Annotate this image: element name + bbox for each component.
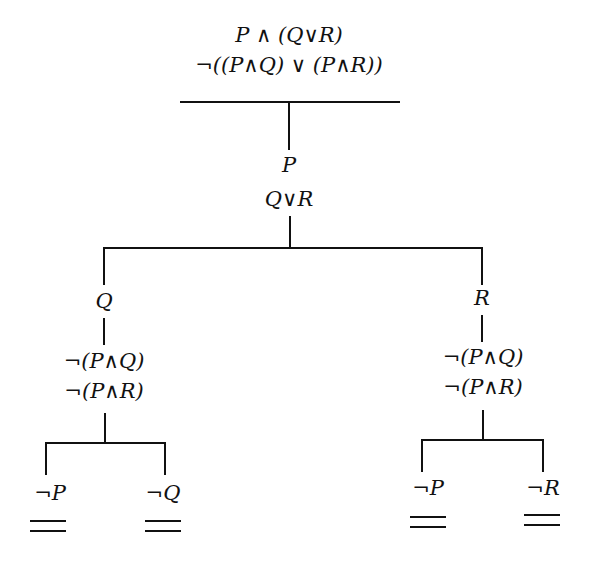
left-leaf-1-closed-mark bbox=[30, 520, 66, 532]
premise-separator-line bbox=[180, 101, 400, 103]
trunk-connector-top bbox=[288, 102, 290, 150]
left-leaf-1: ¬P bbox=[34, 480, 66, 506]
right-branch-drop bbox=[481, 247, 483, 285]
right-branch-connector bbox=[481, 315, 483, 342]
left-continued-formula-1: ¬(P∧Q) bbox=[64, 348, 145, 374]
trunk-formula-1: P bbox=[265, 152, 313, 178]
right-leaf-1-drop bbox=[421, 439, 423, 472]
right-split-line bbox=[421, 439, 544, 441]
right-split-stem bbox=[482, 410, 484, 440]
trunk-formula-2: Q∨R bbox=[265, 186, 313, 212]
left-split-stem bbox=[104, 413, 106, 443]
right-branch-formula: R bbox=[474, 285, 490, 311]
root-formulas: P ∧ (Q∨R) ¬((P∧Q) ∨ (P∧R)) bbox=[195, 22, 383, 78]
left-leaf-2-drop bbox=[164, 442, 166, 475]
root-formula-2: ¬((P∧Q) ∨ (P∧R)) bbox=[195, 52, 383, 78]
right-continued-formula-2: ¬(P∧R) bbox=[443, 374, 524, 400]
right-leaf-2: ¬R bbox=[526, 475, 559, 501]
left-leaf-2: ¬Q bbox=[146, 480, 181, 506]
right-leaf-2-closed-mark bbox=[524, 514, 560, 526]
right-leaf-1-formula: ¬P bbox=[412, 475, 444, 501]
left-branch-formula: Q bbox=[95, 288, 112, 314]
right-leaf-2-drop bbox=[542, 439, 544, 472]
left-leaf-1-formula: ¬P bbox=[34, 480, 66, 506]
left-continued-formula-2: ¬(P∧R) bbox=[64, 378, 145, 404]
right-branch-head: R bbox=[474, 285, 490, 311]
right-continued-formula-1: ¬(P∧Q) bbox=[443, 344, 524, 370]
left-branch-continued: ¬(P∧Q) ¬(P∧R) bbox=[64, 348, 145, 404]
truth-tree-diagram: P ∧ (Q∨R) ¬((P∧Q) ∨ (P∧R)) P Q∨R Q ¬(P∧Q… bbox=[0, 0, 590, 567]
root-formula-1: P ∧ (Q∨R) bbox=[195, 22, 383, 48]
left-branch-connector bbox=[103, 318, 105, 345]
left-leaf-1-drop bbox=[45, 442, 47, 475]
left-split-line bbox=[45, 442, 166, 444]
right-branch-continued: ¬(P∧Q) ¬(P∧R) bbox=[443, 344, 524, 400]
left-leaf-2-formula: ¬Q bbox=[146, 480, 181, 506]
right-leaf-2-formula: ¬R bbox=[526, 475, 559, 501]
left-branch-head: Q bbox=[95, 288, 112, 314]
trunk-formulas: P Q∨R bbox=[265, 152, 313, 212]
right-leaf-1-closed-mark bbox=[410, 516, 446, 528]
left-branch-drop bbox=[103, 247, 105, 285]
trunk-connector-bottom bbox=[289, 216, 291, 248]
left-leaf-2-closed-mark bbox=[145, 520, 181, 532]
right-leaf-1: ¬P bbox=[412, 475, 444, 501]
main-branch-line bbox=[103, 247, 483, 249]
